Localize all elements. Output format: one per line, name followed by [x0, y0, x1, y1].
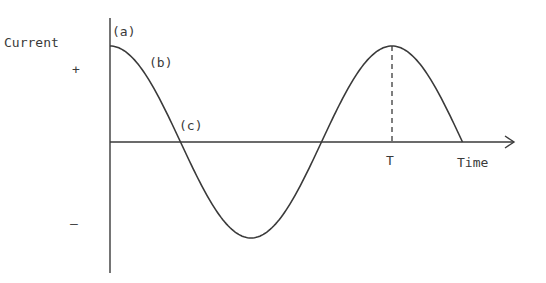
point-label-a: (a): [112, 24, 135, 39]
negative-sign: –: [70, 216, 78, 231]
period-label: T: [386, 153, 394, 168]
x-axis-label: Time: [457, 155, 488, 170]
ac-waveform-diagram: Current + – (a) (b) (c) T Time: [0, 0, 546, 283]
y-axis-label: Current: [4, 35, 59, 50]
positive-sign: +: [72, 62, 80, 77]
point-label-c: (c): [179, 118, 202, 133]
point-label-b: (b): [149, 55, 172, 70]
